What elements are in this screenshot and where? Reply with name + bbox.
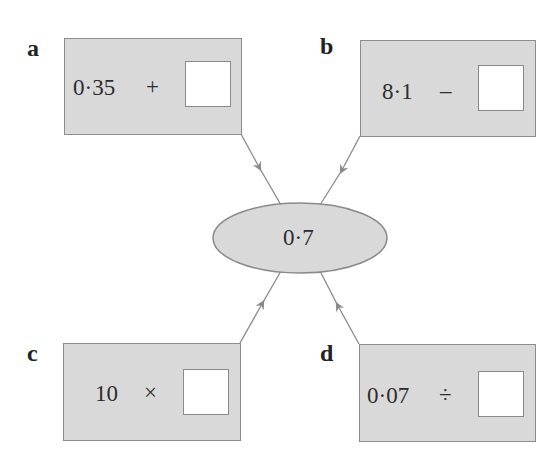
label-c: c xyxy=(27,341,38,365)
connector-b xyxy=(342,136,360,170)
operator-a: + xyxy=(146,75,159,98)
answer-box-c[interactable] xyxy=(183,369,229,415)
center-value: 0·7 xyxy=(283,226,314,249)
answer-box-a[interactable] xyxy=(185,61,231,107)
answer-box-b[interactable] xyxy=(478,65,524,111)
label-b: b xyxy=(320,34,333,58)
connector-d-tail xyxy=(320,271,338,306)
number-b: 8·1 xyxy=(382,80,413,103)
connector-a xyxy=(241,134,259,167)
label-a: a xyxy=(27,36,39,60)
connector-a-tail xyxy=(259,167,281,205)
connector-b-tail xyxy=(320,170,342,205)
connector-c-tail xyxy=(262,271,281,304)
number-c: 10 xyxy=(95,382,118,405)
number-d: 0·07 xyxy=(367,384,409,407)
answer-box-d[interactable] xyxy=(478,371,524,417)
connector-d xyxy=(338,306,359,344)
operator-c: × xyxy=(144,381,157,404)
operator-b: – xyxy=(440,79,452,102)
number-a: 0·35 xyxy=(73,76,115,99)
operator-d: ÷ xyxy=(439,383,452,406)
label-d: d xyxy=(320,341,333,365)
connector-c xyxy=(240,304,262,343)
